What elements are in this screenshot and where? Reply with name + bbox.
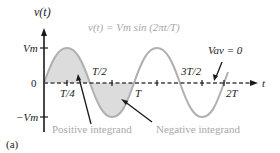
x-axis-label: t xyxy=(262,78,265,89)
y-tick-zero: 0 xyxy=(31,78,37,89)
x-tick-t: T xyxy=(135,88,141,99)
equation-label: v(t) = Vm sin (2πt/T) xyxy=(88,22,180,33)
y-tick-neg-vm: −Vm xyxy=(16,112,38,123)
x-tick-2t: 2T xyxy=(226,88,238,99)
x-axis-arrow xyxy=(250,80,258,86)
y-axis-label: v(t) xyxy=(34,6,51,18)
y-axis-arrow xyxy=(41,28,47,36)
x-tick-3t2: 3T/2 xyxy=(181,66,201,77)
vav-arrow xyxy=(216,62,222,77)
positive-arrow xyxy=(79,78,91,124)
panel-label: (a) xyxy=(6,139,18,150)
positive-integrand-label: Positive integrand xyxy=(52,124,132,135)
y-tick-vm: Vm xyxy=(23,43,38,54)
average-label: Vav = 0 xyxy=(208,45,242,56)
x-tick-t4: T/4 xyxy=(60,88,75,99)
negative-arrow xyxy=(124,101,152,122)
negative-integrand-label: Negative integrand xyxy=(156,124,240,135)
x-tick-t2: T/2 xyxy=(92,66,107,77)
